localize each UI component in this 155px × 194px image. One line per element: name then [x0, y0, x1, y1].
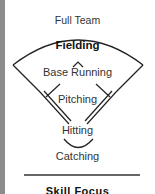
label-hitting: Hitting [0, 124, 155, 136]
label-fielding: Fielding [0, 39, 155, 51]
bottom-heading: Skill Focus [0, 185, 155, 194]
label-base-running: Base Running [0, 66, 155, 78]
label-catching: Catching [0, 150, 155, 162]
label-full-team: Full Team [0, 14, 155, 26]
label-pitching: Pitching [0, 93, 155, 105]
catcher-arc [64, 139, 93, 148]
